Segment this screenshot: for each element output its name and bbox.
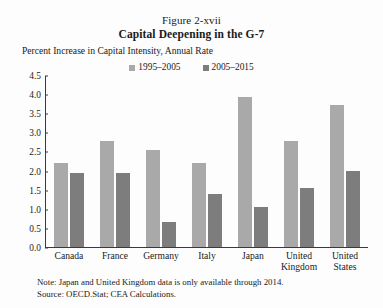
bar — [346, 171, 360, 247]
bar — [330, 105, 344, 248]
bar — [192, 163, 206, 247]
bar-group — [138, 76, 184, 247]
plot-area: 0.00.51.01.52.02.53.03.54.04.5 — [45, 76, 368, 248]
x-axis-label-line: Canada — [46, 250, 92, 261]
y-axis-tick-label: 4.0 — [1, 90, 45, 100]
footnote-note: Note: Japan and United Kingdom data is o… — [37, 277, 284, 289]
chart-legend: 1995–20052005–2015 — [0, 62, 383, 73]
bar-group — [276, 76, 322, 247]
bar — [162, 222, 176, 247]
x-axis-label: Italy — [184, 250, 230, 272]
y-axis-tick-mark — [45, 248, 48, 249]
x-axis-label: France — [92, 250, 138, 272]
legend-label: 2005–2015 — [212, 62, 254, 73]
y-axis-tick-label: 3.5 — [1, 109, 45, 119]
y-axis-tick-label: 1.0 — [1, 205, 45, 215]
page-title: Capital Deepening in the G-7 — [0, 28, 383, 41]
x-axis-label: Germany — [138, 250, 184, 272]
y-axis-tick-label: 1.5 — [1, 186, 45, 196]
bar-group — [230, 76, 276, 247]
x-axis-labels: CanadaFranceGermanyItalyJapanUnitedKingd… — [46, 250, 368, 272]
y-axis-tick-label: 2.0 — [1, 167, 45, 177]
x-axis-label-line: Italy — [184, 250, 230, 261]
bar-group — [92, 76, 138, 247]
bar-group — [46, 76, 92, 247]
y-axis-tick-label: 3.0 — [1, 128, 45, 138]
footnote-source: Source: OECD.Stat; CEA Calculations. — [37, 289, 284, 301]
x-axis-label: Canada — [46, 250, 92, 272]
x-axis-label-line: States — [322, 261, 368, 272]
bar — [70, 173, 84, 247]
legend-item-2: 2005–2015 — [203, 62, 254, 73]
y-axis-tick-label: 0.5 — [1, 224, 45, 234]
x-axis-label-line: Japan — [230, 250, 276, 261]
y-axis-unit-label: Percent Increase in Capital Intensity, A… — [22, 45, 213, 56]
bar — [284, 141, 298, 247]
x-axis-label: UnitedKingdom — [276, 250, 322, 272]
bar — [100, 141, 114, 247]
x-axis-label-line: Germany — [138, 250, 184, 261]
x-axis-label-line: Kingdom — [276, 261, 322, 272]
bar — [300, 188, 314, 247]
figure-container: Figure 2-xvii Capital Deepening in the G… — [0, 0, 383, 308]
x-axis-label-line: United — [276, 250, 322, 261]
legend-swatch-icon — [203, 65, 209, 71]
x-axis-label: UnitedStates — [322, 250, 368, 272]
legend-item-1: 1995–2005 — [129, 62, 180, 73]
y-axis-tick-label: 0.0 — [1, 243, 45, 253]
y-axis-tick-label: 4.5 — [1, 71, 45, 81]
figure-number: Figure 2-xvii — [0, 14, 383, 27]
bar-group — [184, 76, 230, 247]
figure-footnotes: Note: Japan and United Kingdom data is o… — [37, 277, 284, 300]
legend-label: 1995–2005 — [138, 62, 180, 73]
bar — [254, 207, 268, 247]
x-axis-label-line: France — [92, 250, 138, 261]
y-axis-tick-label: 2.5 — [1, 147, 45, 157]
bar — [238, 97, 252, 247]
bar — [146, 150, 160, 247]
bar-groups — [46, 76, 368, 247]
x-axis-label: Japan — [230, 250, 276, 272]
bar — [54, 163, 68, 247]
legend-swatch-icon — [129, 65, 135, 71]
bar — [208, 194, 222, 247]
x-axis-label-line: United — [322, 250, 368, 261]
bar-group — [322, 76, 368, 247]
bar — [116, 173, 130, 247]
